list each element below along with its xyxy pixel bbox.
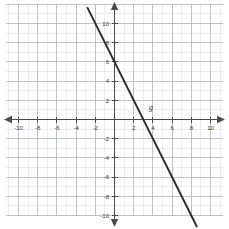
y-tick-label: -10 [100,213,109,219]
line-label-g: g [149,103,153,112]
x-tick-label: -8 [35,125,41,131]
coordinate-plane-svg: -10-8-6-4-2246810 108642-2-4-6-8-10 g [0,0,229,229]
x-tick-label: -2 [93,125,99,131]
x-tick-label: -6 [54,125,60,131]
x-tick-label: 10 [207,125,214,131]
x-tick-label: -4 [73,125,79,131]
y-tick-label: 10 [102,21,109,27]
y-tick-label: -2 [104,136,110,142]
y-tick-label: -8 [104,194,110,200]
x-tick-label: -10 [14,125,23,131]
y-tick-label: -4 [104,155,110,161]
y-tick-label: -6 [104,174,110,180]
coordinate-graph: -10-8-6-4-2246810 108642-2-4-6-8-10 g [0,0,229,229]
